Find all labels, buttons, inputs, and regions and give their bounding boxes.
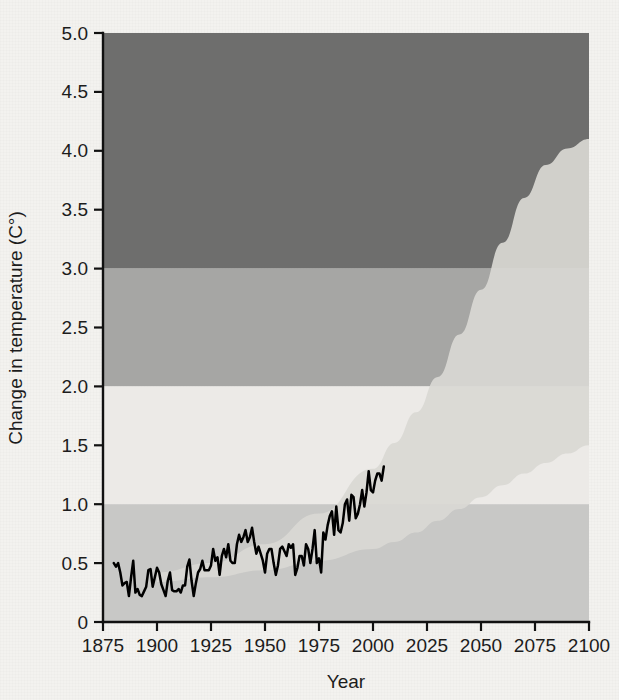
x-tick-label: 1925: [190, 635, 232, 656]
y-tick-label: 0: [77, 612, 88, 633]
climate-projection-chart: 00.51.01.52.02.53.03.54.04.55.0 18751900…: [0, 0, 619, 700]
y-tick-label: 3.0: [62, 258, 88, 279]
x-tick-label: 2100: [568, 635, 610, 656]
x-tick-label: 1900: [136, 635, 178, 656]
x-axis-ticks: 1875190019251950197520002025205020752100: [82, 622, 610, 656]
x-tick-label: 1875: [82, 635, 124, 656]
x-tick-label: 2025: [406, 635, 448, 656]
x-tick-label: 2000: [352, 635, 394, 656]
x-tick-label: 2075: [514, 635, 556, 656]
chart-canvas: 00.51.01.52.02.53.03.54.04.55.0 18751900…: [0, 0, 619, 700]
y-tick-label: 1.0: [62, 494, 88, 515]
y-tick-label: 4.5: [62, 81, 88, 102]
y-tick-label: 4.0: [62, 140, 88, 161]
x-axis-title: Year: [327, 671, 366, 692]
x-tick-label: 1950: [244, 635, 286, 656]
y-tick-label: 3.5: [62, 199, 88, 220]
y-tick-label: 1.5: [62, 435, 88, 456]
x-tick-label: 1975: [298, 635, 340, 656]
y-tick-label: 0.5: [62, 553, 88, 574]
x-tick-label: 2050: [460, 635, 502, 656]
y-axis-ticks: 00.51.01.52.02.53.03.54.04.55.0: [62, 23, 103, 633]
y-tick-label: 2.5: [62, 317, 88, 338]
y-tick-label: 5.0: [62, 23, 88, 44]
y-tick-label: 2.0: [62, 376, 88, 397]
y-axis-title: Change in temperature (C°): [5, 211, 26, 445]
